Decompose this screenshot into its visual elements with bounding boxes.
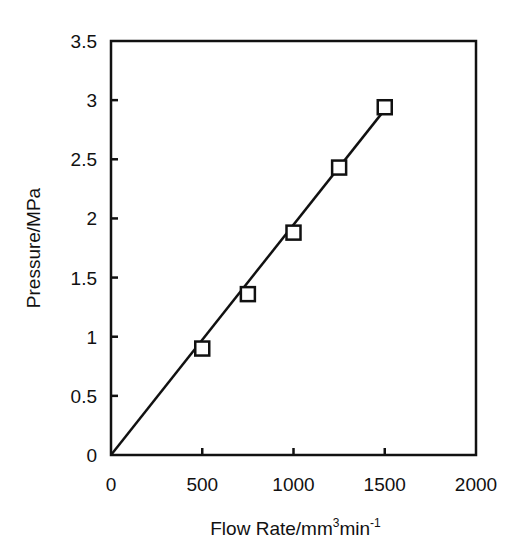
y-tick-label: 1: [86, 327, 97, 348]
data-point: [195, 342, 209, 356]
x-axis-title-base: Flow Rate/mm: [210, 518, 332, 539]
data-point: [378, 100, 392, 114]
x-tick-label: 0: [106, 474, 117, 495]
x-axis-title-sup2: -1: [370, 516, 381, 530]
data-point: [332, 161, 346, 175]
y-tick-label: 3.5: [71, 31, 97, 52]
y-tick-label: 2: [86, 208, 97, 229]
x-tick-label: 2000: [455, 474, 497, 495]
y-tick-label: 0: [86, 445, 97, 466]
x-axis-title: Flow Rate/mm3min-1: [210, 516, 381, 539]
y-tick-label: 1.5: [71, 268, 97, 289]
x-axis-title-mid: min: [339, 518, 370, 539]
y-tick-label: 0.5: [71, 386, 97, 407]
x-tick-label: 500: [186, 474, 218, 495]
x-tick-label: 1000: [272, 474, 314, 495]
data-point: [287, 226, 301, 240]
y-tick-label: 2.5: [71, 149, 97, 170]
y-axis-title: Pressure/MPa: [23, 187, 44, 308]
data-point: [241, 287, 255, 301]
y-tick-label: 3: [86, 90, 97, 111]
plot-frame: [111, 41, 476, 455]
chart: 00.511.522.533.5 0500100015002000 Pressu…: [0, 0, 520, 556]
x-tick-label: 1500: [364, 474, 406, 495]
